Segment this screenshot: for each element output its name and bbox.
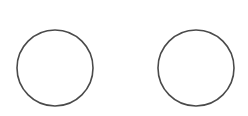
- background: [0, 0, 248, 116]
- diagram-canvas: [0, 0, 248, 116]
